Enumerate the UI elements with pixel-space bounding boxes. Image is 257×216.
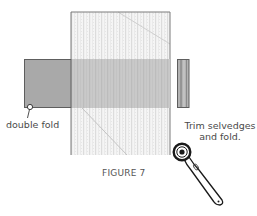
figure-7-diagram: double fold Trim selvedges and fold. FIG… (0, 0, 257, 216)
trim-selvedges-label: Trim selvedges and fold. (182, 120, 257, 142)
figure-caption: FIGURE 7 (102, 168, 146, 179)
folded-band (71, 59, 170, 108)
trim-label-line-1: Trim selvedges (182, 120, 257, 131)
double-fold-piece (25, 60, 72, 108)
trim-label-line-2: and fold. (182, 131, 257, 142)
rotary-cutter-icon (174, 144, 223, 205)
double-fold-label: double fold (6, 119, 59, 130)
fabric-illustration (0, 0, 257, 216)
circle-marker-icon (27, 104, 32, 118)
trimmed-selvedge-strip (178, 60, 190, 108)
